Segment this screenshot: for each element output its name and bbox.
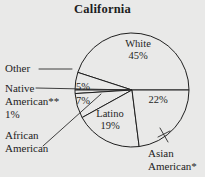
- callout-label-other: Other: [5, 62, 30, 75]
- slice-label-white: White 45%: [113, 38, 163, 62]
- pie-chart-california: California Whi: [0, 0, 205, 177]
- callout-label-native-american-line2: American**: [5, 95, 59, 108]
- slice-label-white-name: White: [113, 38, 163, 50]
- callout-label-native-american: Native American** 1%: [5, 82, 59, 121]
- callout-label-asian-american: Asian American*: [148, 147, 197, 173]
- callout-label-african-american-line2: American: [5, 142, 48, 155]
- slice-label-latino-value: 19%: [86, 120, 134, 132]
- slice-label-latino-name: Latino: [86, 108, 134, 120]
- callout-label-african-american: African American: [5, 129, 48, 155]
- callout-label-asian-american-line1: Asian: [148, 147, 197, 160]
- callout-label-native-american-line1: Native: [5, 82, 59, 95]
- slice-label-latino: Latino 19%: [86, 108, 134, 132]
- callout-label-asian-american-line2: American*: [148, 160, 197, 173]
- slice-label-asian-value: 22%: [140, 94, 176, 106]
- slice-label-african-value: 7%: [70, 95, 96, 107]
- callout-label-native-american-value: 1%: [5, 108, 59, 121]
- slice-label-other-value: 5%: [70, 81, 96, 93]
- slice-label-white-value: 45%: [113, 50, 163, 62]
- callout-label-african-american-line1: African: [5, 129, 48, 142]
